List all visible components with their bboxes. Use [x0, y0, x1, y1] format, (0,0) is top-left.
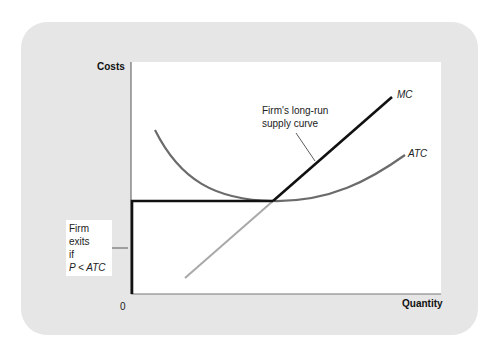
supply-callout-line1: Firm's long-run [262, 104, 328, 117]
supply-leader-line [296, 133, 315, 161]
exit-callout-line2: exits [69, 235, 109, 248]
exit-callout-line4: P < ATC [69, 261, 109, 274]
supply-callout-line2: supply curve [262, 117, 328, 130]
mc-lower-segment [185, 201, 273, 278]
supply-curve-callout: Firm's long-run supply curve [260, 103, 330, 131]
x-axis-label: Quantity [402, 298, 443, 309]
exit-callout-line1: Firm [69, 222, 109, 235]
atc-curve [155, 130, 405, 201]
exit-callout: Firm exits if P < ATC [66, 220, 112, 276]
origin-label: 0 [120, 301, 126, 312]
mc-label: MC [397, 89, 413, 100]
supply-curve-flat [132, 201, 273, 294]
y-axis-label: Costs [97, 61, 125, 72]
atc-label: ATC [408, 148, 427, 159]
exit-callout-line3: if [69, 248, 109, 261]
